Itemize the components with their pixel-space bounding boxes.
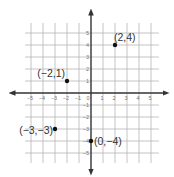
data-point <box>113 43 117 47</box>
x-tick-labels: −5−4−3−2−1012345 <box>27 95 152 101</box>
y-tick-label: −5 <box>83 150 89 156</box>
y-tick-label: −3 <box>83 126 89 132</box>
y-tick-label: 2 <box>86 66 89 72</box>
x-tick-label: 5 <box>148 95 151 101</box>
x-tick-label: −1 <box>75 95 81 101</box>
point-label: (2,4) <box>114 31 136 43</box>
data-point <box>53 127 57 131</box>
data-point <box>89 139 93 143</box>
x-tick-label: 0 <box>86 95 89 101</box>
x-tick-label: 4 <box>136 95 139 101</box>
point-label: (−2,1) <box>37 67 65 79</box>
point-label: (−3,−3) <box>19 124 53 136</box>
point-label: (0,−4) <box>94 135 122 147</box>
x-tick-label: 1 <box>100 95 103 101</box>
y-tick-label: 5 <box>86 30 89 36</box>
coordinate-plane: −5−4−3−2−1012345 54321−1−2−3−4−5 (2,4)(−… <box>0 0 174 177</box>
y-tick-label: 3 <box>86 54 89 60</box>
y-tick-label: −1 <box>83 102 89 108</box>
x-tick-label: −5 <box>27 95 33 101</box>
x-tick-label: −2 <box>63 95 69 101</box>
y-tick-label: 1 <box>86 78 89 84</box>
y-tick-label: −4 <box>83 138 89 144</box>
y-tick-label: 4 <box>86 42 89 48</box>
data-points: (2,4)(−2,1)(−3,−3)(0,−4) <box>19 31 135 147</box>
x-tick-label: 3 <box>124 95 127 101</box>
y-tick-label: −2 <box>83 114 89 120</box>
data-point <box>65 79 69 83</box>
x-tick-label: −3 <box>51 95 57 101</box>
x-tick-label: −4 <box>39 95 45 101</box>
x-tick-label: 2 <box>112 95 115 101</box>
